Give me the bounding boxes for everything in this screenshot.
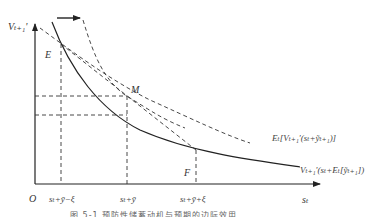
y-axis-label: Vₜ₊₁'	[8, 22, 27, 32]
origin-label: O	[29, 194, 36, 204]
diagram-canvas	[0, 0, 375, 217]
point-M-label: M	[131, 85, 139, 95]
marginal-curve-label: Vₜ₊₁'(sₜ+Eₜ[ỹₜ₊₁])	[300, 166, 364, 175]
marginal-utility-curve	[52, 22, 300, 167]
x-tick-mid: sₜ+ȳ	[120, 195, 136, 204]
x-tick-high: sₜ+ȳ+ξ	[180, 195, 206, 204]
shifted-curve	[83, 20, 185, 128]
figure-caption: 图 5-1 预防性储蓄动机与预期的边际效用	[70, 209, 237, 217]
point-E-label: E	[45, 50, 51, 60]
x-tick-low: sₜ+ȳ−ξ	[49, 195, 75, 204]
expected-marginal-utility-curve	[40, 28, 250, 143]
point-F-label: F	[184, 168, 190, 178]
expected-curve-label: Eₜ[Vₜ₊₁'(sₜ+ỹₜ₊₁)]	[272, 134, 336, 143]
x-axis-label: sₜ	[302, 195, 308, 205]
